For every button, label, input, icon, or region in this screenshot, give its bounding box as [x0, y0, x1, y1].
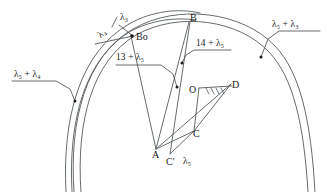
leader-13-lam5 [116, 65, 177, 87]
annotation-lambda5-plus-lambda3: λ₅ + λ₃ [272, 20, 299, 30]
leader-dot-left [74, 100, 77, 103]
leader-dot-13 [176, 86, 179, 89]
annotation-lambda5: λ₅ [183, 157, 191, 167]
leader-left [12, 81, 75, 101]
point-label-D: D [232, 80, 239, 90]
tick-lam3-upper [112, 17, 117, 27]
annotation-lambda3: λ₃ [120, 13, 128, 23]
annotation-14-plus-lambda5: 14 + λ₅ [196, 39, 224, 49]
point-label-C: C [193, 129, 200, 139]
ground-hatch-icon [206, 88, 224, 94]
leader-dot-14 [181, 62, 184, 65]
joint-dot-B0 [130, 34, 134, 38]
link-Cprime-C [170, 131, 194, 154]
point-label-B: B [190, 13, 197, 23]
point-label-C-prime: C' [166, 157, 175, 167]
point-label-B0: Bo [136, 32, 148, 42]
point-label-A: A [152, 150, 159, 160]
annotation-lambda5-plus-lambda4: λ₅ + λ₄ [14, 70, 41, 80]
arc-inner-1 [65, 11, 200, 192]
link-A-B [156, 22, 189, 149]
annotation-13-plus-lambda5: 13 + λ₅ [116, 53, 144, 63]
figure-canvas: B Bo O D C A C' λ₅ + λ₄ λ₅ + λ₃ λ₄ λ₃ 13… [0, 0, 327, 192]
arc-outer-2 [80, 21, 308, 192]
link-A-C [156, 131, 194, 149]
point-label-O: O [189, 85, 196, 95]
leader-dot-right [260, 56, 263, 59]
leader-14-lam5 [182, 50, 231, 63]
